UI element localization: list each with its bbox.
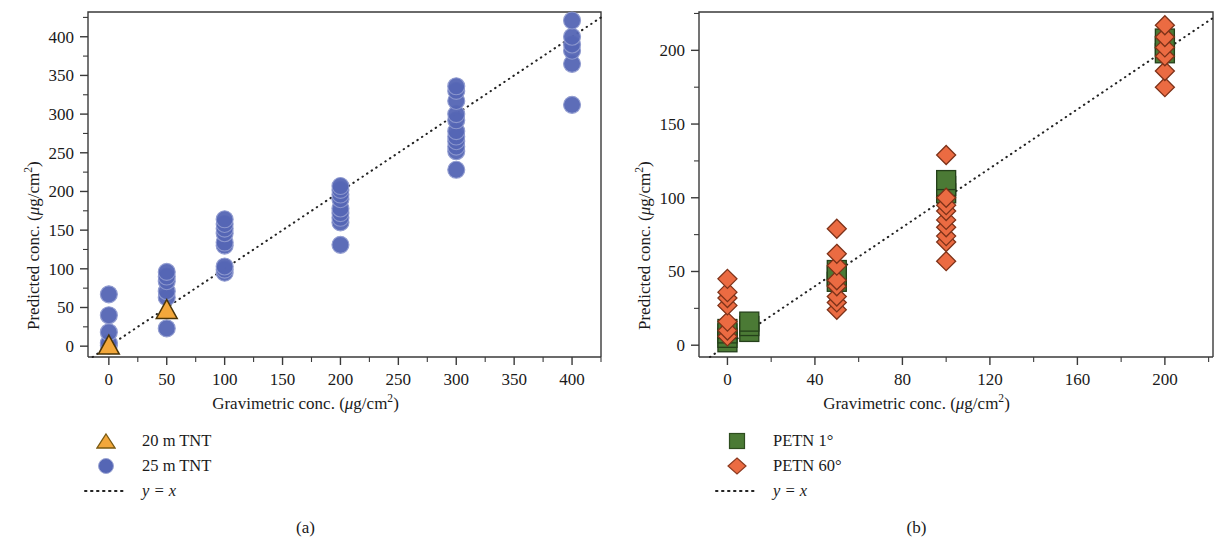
svg-text:250: 250 (386, 370, 412, 389)
svg-text:150: 150 (49, 221, 75, 240)
chart-panel-a: 0501001502002503003504000501001502002503… (0, 0, 611, 550)
svg-text:100: 100 (660, 189, 686, 208)
triangle-marker-icon (80, 432, 132, 450)
x-axis-label-a: Gravimetric conc. (μg/cm2) (0, 392, 611, 414)
svg-text:0: 0 (66, 337, 75, 356)
legend-b: PETN 1° PETN 60° y = x (711, 428, 841, 503)
scatter-plot-a: 0501001502002503003504000501001502002503… (0, 0, 611, 400)
svg-text:200: 200 (1152, 370, 1178, 389)
legend-label-identity-line-a: y = x (132, 481, 176, 501)
legend-label-20m-tnt: 20 m TNT (132, 431, 211, 451)
svg-text:350: 350 (49, 66, 75, 85)
legend-item-identity-line-a: y = x (80, 478, 211, 503)
svg-text:160: 160 (1065, 370, 1091, 389)
panel-caption-a: (a) (0, 518, 611, 538)
svg-text:100: 100 (212, 370, 238, 389)
y-axis-label-b: Predicted conc. (μg/cm2) (633, 161, 655, 330)
legend-label-petn-60: PETN 60° (763, 456, 841, 476)
svg-text:200: 200 (49, 182, 75, 201)
svg-text:80: 80 (894, 370, 911, 389)
x-axis-label-b: Gravimetric conc. (μg/cm2) (611, 392, 1222, 414)
svg-text:300: 300 (443, 370, 469, 389)
svg-text:100: 100 (49, 260, 75, 279)
dotted-line-icon (80, 486, 132, 496)
svg-text:200: 200 (328, 370, 354, 389)
svg-text:40: 40 (806, 370, 823, 389)
svg-text:150: 150 (270, 370, 296, 389)
svg-text:350: 350 (501, 370, 527, 389)
svg-text:0: 0 (677, 336, 686, 355)
legend-item-20m-tnt: 20 m TNT (80, 428, 211, 453)
legend-label-petn-1: PETN 1° (763, 431, 833, 451)
y-axis-label-a: Predicted conc. (μg/cm2) (22, 161, 44, 330)
legend-a: 20 m TNT 25 m TNT y = x (80, 428, 211, 503)
svg-text:0: 0 (723, 370, 732, 389)
chart-panel-b: 04080120160200050100150200 Gravimetric c… (611, 0, 1222, 550)
svg-text:150: 150 (660, 115, 686, 134)
legend-label-25m-tnt: 25 m TNT (132, 456, 211, 476)
legend-item-identity-line-b: y = x (711, 478, 841, 503)
legend-item-petn-60: PETN 60° (711, 453, 841, 478)
svg-text:50: 50 (57, 298, 74, 317)
square-marker-icon (711, 432, 763, 450)
diamond-marker-icon (711, 457, 763, 475)
panel-caption-b: (b) (611, 518, 1222, 538)
svg-text:250: 250 (49, 144, 75, 163)
circle-marker-icon (80, 457, 132, 475)
legend-label-identity-line-b: y = x (763, 481, 807, 501)
svg-text:400: 400 (49, 28, 75, 47)
svg-text:400: 400 (559, 370, 585, 389)
svg-text:120: 120 (977, 370, 1003, 389)
svg-text:0: 0 (105, 370, 114, 389)
scatter-plot-b: 04080120160200050100150200 (611, 0, 1223, 400)
legend-item-petn-1: PETN 1° (711, 428, 841, 453)
svg-text:300: 300 (49, 105, 75, 124)
svg-text:50: 50 (668, 262, 685, 281)
dotted-line-icon (711, 486, 763, 496)
svg-text:200: 200 (660, 41, 686, 60)
svg-text:50: 50 (158, 370, 175, 389)
legend-item-25m-tnt: 25 m TNT (80, 453, 211, 478)
figure-root: 0501001502002503003504000501001502002503… (0, 0, 1223, 550)
